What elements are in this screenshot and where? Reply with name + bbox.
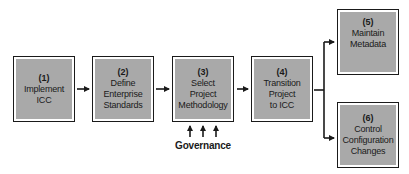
step-number: (6) xyxy=(363,113,374,124)
step-label-line: Project xyxy=(190,89,217,100)
step-label-line: Define xyxy=(111,78,136,89)
step-label-line: Maintain xyxy=(352,28,384,39)
step-label-line: Enterprise xyxy=(103,89,142,100)
step-number: (3) xyxy=(198,67,209,78)
step-label-line: Metadata xyxy=(350,39,386,50)
step-label-line: ICC xyxy=(37,95,52,106)
step-label-line: Standards xyxy=(103,100,142,111)
step-number: (4) xyxy=(277,67,288,78)
step-label-line: Configuration xyxy=(343,135,394,146)
step-2-define-enterprise-standards: (2) Define Enterprise Standards xyxy=(92,56,154,122)
step-label-line: Select xyxy=(191,78,215,89)
step-number: (5) xyxy=(363,17,374,28)
step-number: (1) xyxy=(39,73,50,84)
step-label-line: Transition xyxy=(263,78,300,89)
step-label-line: Control xyxy=(354,124,382,135)
step-3-select-project-methodology: (3) Select Project Methodology xyxy=(172,56,234,122)
step-5-maintain-metadata: (5) Maintain Metadata xyxy=(337,9,399,75)
governance-label: Governance xyxy=(172,140,234,151)
step-1-implement-icc: (1) Implement ICC xyxy=(13,56,75,122)
step-label-line: Changes xyxy=(351,146,386,157)
step-label-line: Implement xyxy=(24,84,64,95)
step-label-line: Methodology xyxy=(178,100,227,111)
step-number: (2) xyxy=(118,67,129,78)
step-6-control-configuration-changes: (6) Control Configuration Changes xyxy=(337,102,399,168)
step-label-line: Project xyxy=(269,89,296,100)
step-4-transition-project-to-icc: (4) Transition Project to ICC xyxy=(251,56,313,122)
step-label-line: to ICC xyxy=(270,100,294,111)
